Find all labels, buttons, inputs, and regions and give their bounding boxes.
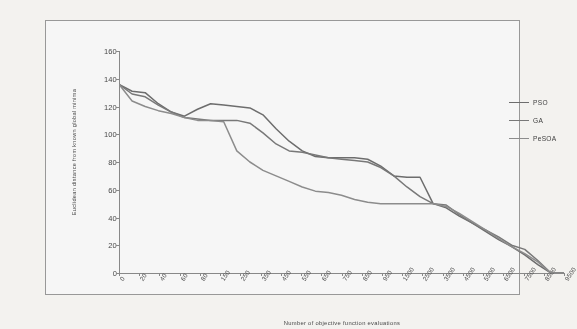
- page-bleedthrough-text-3: [4, 176, 11, 201]
- legend-label-pso: PSO: [533, 99, 548, 106]
- y-axis-tickmark: [116, 218, 119, 219]
- x-axis-tick-0: 0: [118, 275, 126, 282]
- legend-label-ga: GA: [533, 117, 543, 124]
- chart-figure-frame: Euclidean distance from known global min…: [45, 20, 520, 295]
- y-axis-tick-labels: 020406080100120140160: [91, 51, 117, 273]
- y-axis-tickmark: [116, 190, 119, 191]
- y-axis-tickmark: [116, 273, 119, 274]
- series-svg: [119, 51, 564, 273]
- plot-area: [119, 51, 564, 273]
- page-bleedthrough-text-4: [18, 300, 27, 326]
- legend-swatch-pso: [509, 102, 529, 103]
- y-axis-tickmark: [116, 245, 119, 246]
- legend-item-pesoa[interactable]: PeSOA: [509, 129, 557, 147]
- series-line-pesoa: [119, 84, 564, 273]
- y-axis-tickmark: [116, 107, 119, 108]
- y-axis-tick-60: 60: [95, 185, 117, 194]
- y-axis-tickmark: [116, 162, 119, 163]
- y-axis-tick-160: 160: [95, 47, 117, 56]
- y-axis-tickmark: [116, 79, 119, 80]
- legend-swatch-ga: [509, 120, 529, 121]
- chart-legend: PSOGAPeSOA: [509, 93, 557, 147]
- y-axis-title: Euclidean distance from known global min…: [71, 62, 77, 242]
- page-bleedthrough-text-1: [4, 118, 11, 143]
- y-axis-tickmark: [116, 134, 119, 135]
- y-axis-tick-120: 120: [95, 102, 117, 111]
- y-axis-tick-100: 100: [95, 130, 117, 139]
- page-bleedthrough-text-2: [4, 148, 11, 173]
- y-axis-tick-40: 40: [95, 213, 117, 222]
- series-line-pso: [119, 84, 564, 273]
- y-axis-tick-20: 20: [95, 241, 117, 250]
- y-axis-tick-140: 140: [95, 74, 117, 83]
- series-line-ga: [119, 84, 564, 273]
- legend-swatch-pesoa: [509, 138, 529, 139]
- y-axis-tickmark: [116, 51, 119, 52]
- y-axis-tick-0: 0: [95, 269, 117, 278]
- legend-item-ga[interactable]: GA: [509, 111, 557, 129]
- x-axis-tick-9500: 9500: [563, 266, 577, 282]
- legend-item-pso[interactable]: PSO: [509, 93, 557, 111]
- x-axis-title: Number of objective function evaluations: [119, 320, 565, 326]
- legend-label-pesoa: PeSOA: [533, 135, 557, 142]
- y-axis-tick-80: 80: [95, 158, 117, 167]
